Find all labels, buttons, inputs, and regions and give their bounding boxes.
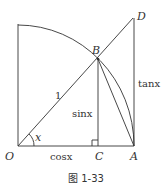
label-cosx: cosx	[50, 151, 73, 162]
label-radius: 1	[55, 90, 61, 101]
label-A: A	[129, 150, 138, 163]
label-D: D	[136, 10, 146, 23]
label-sinx: sinx	[72, 108, 93, 119]
unit-circle-diagram: O C A B D 1 x sinx cosx tanx 图 1-33	[0, 0, 166, 187]
point-B-dot	[97, 58, 100, 61]
label-O: O	[5, 150, 14, 163]
chord-BA	[98, 59, 134, 146]
label-C: C	[95, 150, 104, 163]
label-B: B	[91, 44, 100, 57]
angle-arc	[29, 134, 34, 146]
right-angle-mark	[92, 140, 98, 146]
label-angle-x: x	[35, 131, 42, 144]
unit-arc	[18, 25, 134, 146]
label-tanx: tanx	[138, 78, 160, 89]
line-OD	[18, 18, 133, 146]
figure-caption: 图 1-33	[68, 173, 104, 184]
